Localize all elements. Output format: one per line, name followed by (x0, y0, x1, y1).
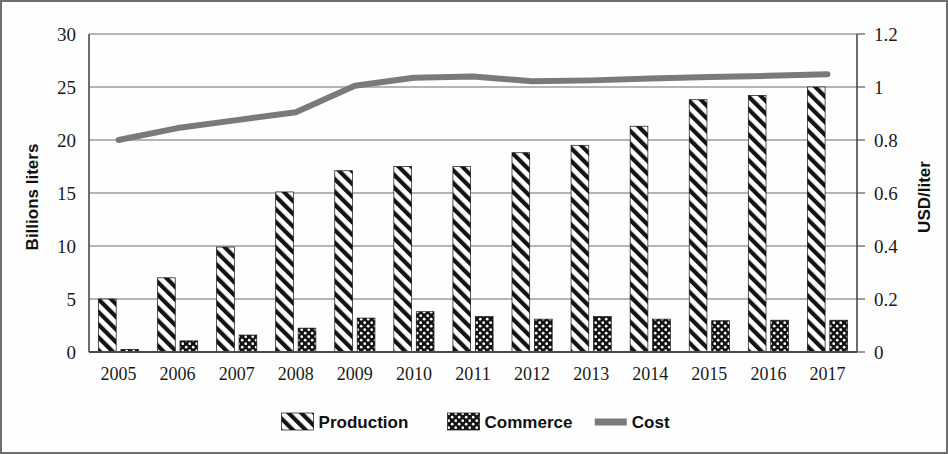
commerce-bar (653, 319, 671, 352)
x-category-label: 2008 (278, 364, 314, 384)
commerce-bar (357, 318, 375, 352)
y2-tick-label: 0 (874, 342, 884, 363)
y2-tick-label: 0.2 (874, 289, 898, 310)
production-bar (98, 299, 116, 352)
chart-frame: 051015202530 00.20.40.60.811.2 200520062… (0, 0, 948, 454)
secondary-y-axis-tick-labels: 00.20.40.60.811.2 (874, 24, 898, 363)
y2-tick-label: 1 (874, 77, 884, 98)
commerce-bar (534, 319, 552, 352)
legend-swatch-diagonal-hatch (282, 413, 314, 430)
legend-label: Cost (632, 413, 670, 432)
cost-line (119, 74, 828, 140)
production-bar (748, 95, 766, 352)
production-bar (158, 278, 176, 352)
x-category-label: 2006 (160, 364, 196, 384)
y-tick-label: 10 (57, 236, 76, 257)
secondary-y-axis-ticks (857, 34, 865, 352)
production-bar (630, 126, 648, 352)
y-tick-label: 0 (67, 342, 77, 363)
x-category-label: 2012 (514, 364, 550, 384)
x-category-label: 2013 (573, 364, 609, 384)
commerce-bar (298, 328, 316, 352)
y-tick-label: 20 (57, 130, 76, 151)
x-category-label: 2007 (219, 364, 255, 384)
y2-tick-label: 0.4 (874, 236, 898, 257)
y2-tick-label: 0.8 (874, 130, 898, 151)
production-bar (512, 153, 530, 352)
commerce-bar (712, 321, 730, 352)
production-bar (807, 87, 825, 352)
x-category-label: 2010 (396, 364, 432, 384)
secondary-y-axis-title: USD/liter (915, 161, 934, 233)
x-category-label: 2017 (809, 364, 845, 384)
x-category-label: 2009 (337, 364, 373, 384)
y-tick-label: 30 (57, 24, 76, 45)
commerce-bar (239, 335, 257, 352)
legend-swatch-dotted-fill (448, 413, 480, 430)
y-axis-tick-labels: 051015202530 (57, 24, 76, 363)
production-bar (394, 167, 412, 353)
commerce-bar (475, 316, 493, 352)
y-tick-label: 25 (57, 77, 76, 98)
x-category-label: 2014 (632, 364, 668, 384)
production-bar (453, 167, 471, 353)
y2-tick-label: 0.6 (874, 183, 898, 204)
production-bar (276, 192, 294, 352)
y2-tick-label: 1.2 (874, 24, 898, 45)
commerce-bar (416, 312, 434, 352)
legend-label: Production (319, 413, 409, 432)
production-bar (571, 145, 589, 352)
chart-legend: ProductionCommerceCost (282, 413, 670, 432)
production-bar (335, 171, 353, 352)
legend-item[interactable]: Production (282, 413, 409, 432)
gridlines (89, 34, 857, 352)
legend-label: Commerce (485, 413, 573, 432)
commerce-bar (180, 341, 198, 352)
x-category-label: 2011 (455, 364, 490, 384)
commerce-bar (594, 316, 612, 352)
cost-line-series (119, 74, 828, 140)
combo-chart: 051015202530 00.20.40.60.811.2 200520062… (2, 2, 948, 454)
legend-item[interactable]: Cost (595, 413, 670, 432)
y-axis-title: Billions liters (23, 144, 42, 251)
y-tick-label: 15 (57, 183, 76, 204)
x-category-label: 2016 (750, 364, 786, 384)
commerce-bar (771, 320, 789, 352)
x-category-label: 2005 (101, 364, 137, 384)
x-category-label: 2015 (691, 364, 727, 384)
production-bar (689, 100, 707, 352)
production-bar (217, 247, 235, 352)
commerce-bar (830, 320, 848, 352)
legend-item[interactable]: Commerce (448, 413, 573, 432)
y-tick-label: 5 (67, 289, 77, 310)
x-axis-category-labels: 2005200620072008200920102011201220132014… (101, 364, 846, 384)
